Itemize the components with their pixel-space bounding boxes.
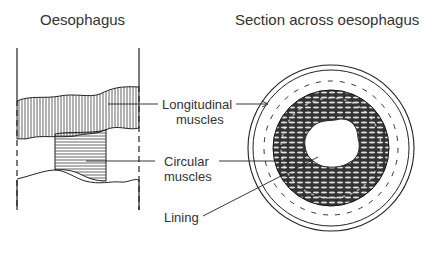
label-lining: Lining <box>164 210 199 225</box>
label-circular: Circular muscles <box>164 154 212 184</box>
cross-section <box>248 65 414 231</box>
label-longitudinal: Longitudinal muscles <box>162 97 232 127</box>
label-longitudinal-line2: muscles <box>162 112 232 127</box>
circular-muscle-band <box>55 130 106 181</box>
longitudinal-muscle-band <box>17 87 139 139</box>
label-circular-line2: muscles <box>164 169 212 184</box>
label-longitudinal-line1: Longitudinal <box>162 97 232 112</box>
label-circular-line1: Circular <box>164 154 212 169</box>
